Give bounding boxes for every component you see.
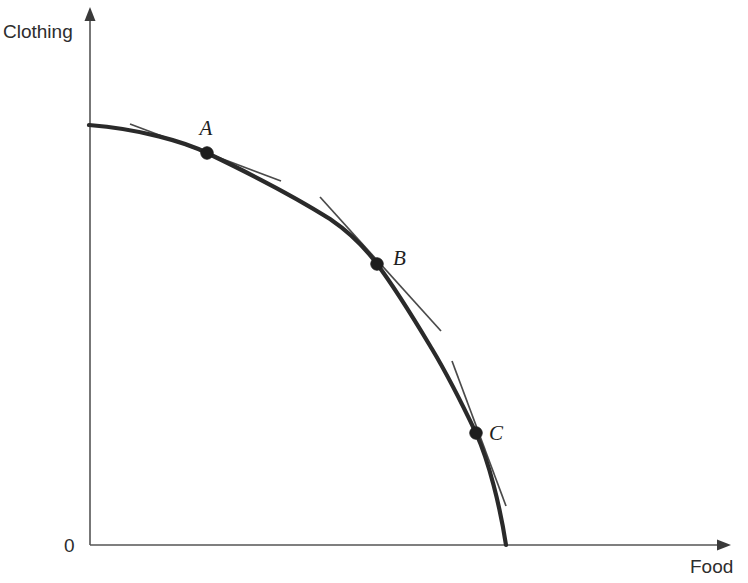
- point-marker-a: [201, 147, 213, 159]
- point-label-a: A: [198, 116, 213, 140]
- point-label-c: C: [489, 421, 504, 445]
- y-axis-arrowhead-icon: [85, 7, 96, 21]
- origin-label: 0: [64, 535, 75, 556]
- ppf-curve: [89, 125, 506, 545]
- ppf-chart-canvas: A B C Clothing Food 0: [0, 0, 748, 583]
- point-label-b: B: [393, 246, 406, 270]
- x-axis-label: Food: [690, 556, 733, 577]
- point-marker-b: [371, 258, 383, 270]
- point-marker-c: [470, 427, 482, 439]
- y-axis-label: Clothing: [3, 21, 73, 42]
- x-axis-arrowhead-icon: [717, 540, 731, 551]
- ppf-figure: A B C Clothing Food 0: [0, 0, 748, 583]
